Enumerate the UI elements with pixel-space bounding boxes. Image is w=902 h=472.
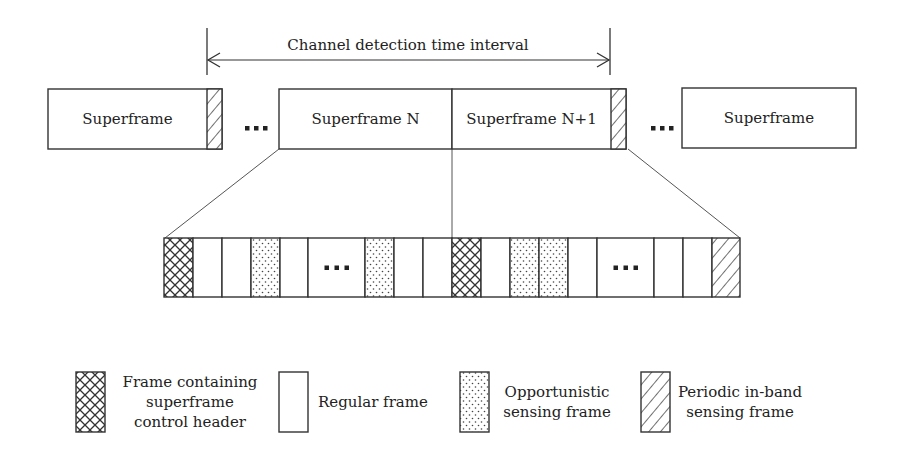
frame-regular xyxy=(193,238,222,297)
legend-label: sensing frame xyxy=(503,403,611,421)
periodic-sensing-tail xyxy=(611,89,626,149)
superframe-label: Superframe N xyxy=(311,110,419,128)
frame-regular xyxy=(394,238,423,297)
connector-line xyxy=(165,149,279,238)
legend-swatch xyxy=(641,372,670,432)
frame-opportunistic-sensing xyxy=(365,238,394,297)
superframe-label: Superframe N+1 xyxy=(466,110,596,128)
interval-label: Channel detection time interval xyxy=(287,36,529,54)
frame-regular xyxy=(568,238,597,297)
legend-item-regular: Regular frame xyxy=(279,372,428,432)
legend-label: sensing frame xyxy=(686,403,794,421)
superframe-label: Superframe xyxy=(82,110,172,128)
ellipsis-icon xyxy=(245,126,268,131)
superframe-row: SuperframeSuperframe NSuperframe N+1Supe… xyxy=(48,88,856,149)
frame-row xyxy=(164,238,740,297)
superframe-structure-diagram: Channel detection time interval Superfra… xyxy=(0,0,902,472)
legend-swatch xyxy=(76,372,105,432)
connector-line xyxy=(628,149,740,238)
superframe-box: Superframe N xyxy=(279,89,452,149)
frame-regular xyxy=(654,238,683,297)
frame-opportunistic-sensing xyxy=(251,238,280,297)
ellipsis-icon xyxy=(325,266,350,271)
channel-detection-interval: Channel detection time interval xyxy=(207,28,610,75)
legend-label: superframe xyxy=(146,393,234,411)
frame-regular xyxy=(481,238,510,297)
legend-item-control-header: Frame containingsuperframecontrol header xyxy=(76,372,258,432)
frame-control-header xyxy=(164,238,193,297)
frame-regular xyxy=(683,238,712,297)
frame-regular xyxy=(280,238,308,297)
ellipsis-icon xyxy=(651,126,674,131)
superframe-box: Superframe N+1 xyxy=(452,89,626,149)
legend-swatch xyxy=(460,372,489,432)
frame-opportunistic-sensing xyxy=(510,238,539,297)
legend-item-opportunistic-sensing: Opportunisticsensing frame xyxy=(460,372,611,432)
legend-label: Frame containing xyxy=(123,373,258,391)
frame-periodic-in-band-sensing xyxy=(712,238,740,297)
legend-item-periodic-in-band-sensing: Periodic in-bandsensing frame xyxy=(641,372,802,432)
frame-control-header xyxy=(452,238,481,297)
legend-label: control header xyxy=(134,413,247,431)
superframe-label: Superframe xyxy=(724,109,814,127)
superframe-box: Superframe xyxy=(682,88,856,148)
ellipsis-icon xyxy=(614,266,639,271)
legend-swatch xyxy=(279,372,308,432)
frame-opportunistic-sensing xyxy=(539,238,568,297)
legend: Frame containingsuperframecontrol header… xyxy=(76,372,802,432)
legend-label: Opportunistic xyxy=(505,383,610,401)
superframe-box: Superframe xyxy=(48,89,222,149)
zoom-connectors xyxy=(165,149,740,238)
frame-regular xyxy=(423,238,452,297)
periodic-sensing-tail xyxy=(207,89,222,149)
legend-label: Regular frame xyxy=(318,393,428,411)
frame-regular xyxy=(222,238,251,297)
legend-label: Periodic in-band xyxy=(678,383,803,401)
